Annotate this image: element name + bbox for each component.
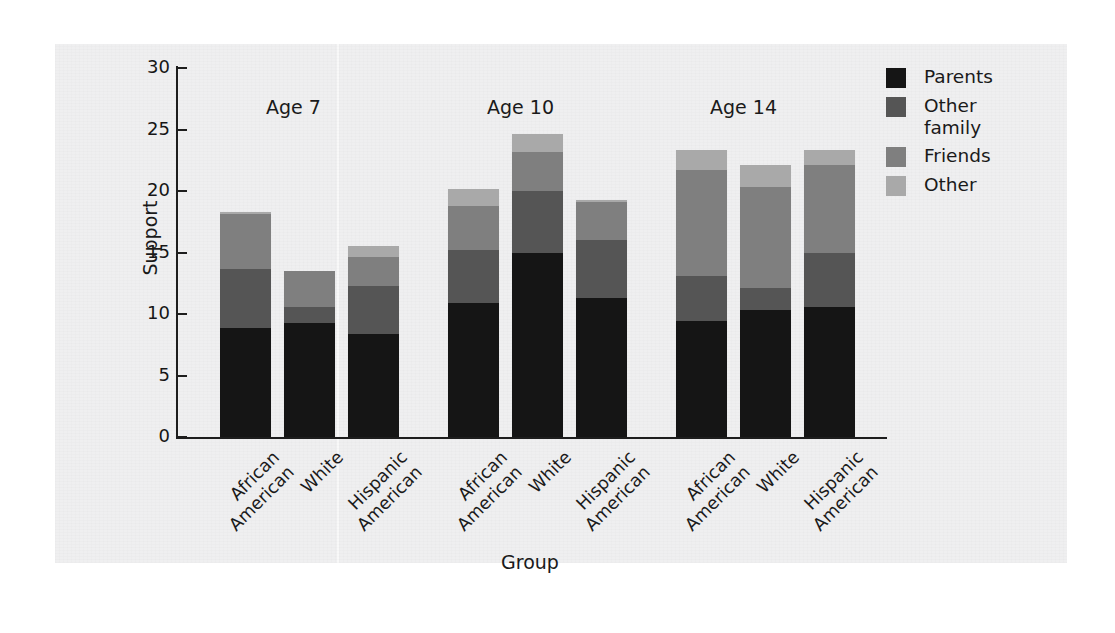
y-axis-tick-label: 5 (130, 366, 170, 384)
bars-layer (176, 68, 884, 437)
bar-segment (740, 288, 791, 310)
legend-label: Other (924, 174, 977, 196)
legend-swatch (886, 97, 906, 117)
bar (576, 200, 627, 437)
bar-segment (220, 328, 271, 437)
bar-segment (512, 191, 563, 253)
stacked-bar-chart: 051015202530 Age 7Age 10Age 14 African A… (0, 0, 1115, 633)
bar-segment (676, 170, 727, 276)
bar-segment (576, 298, 627, 437)
bar-segment (676, 321, 727, 437)
x-axis-title: Group (0, 551, 1060, 573)
bar-segment (740, 310, 791, 437)
bar-segment (512, 134, 563, 151)
bar-segment (348, 246, 399, 257)
bar-segment (576, 240, 627, 298)
bar-segment (804, 253, 855, 307)
bar-segment (348, 257, 399, 285)
legend-item: Other (886, 174, 1086, 196)
y-axis-tick-label: 25 (130, 120, 170, 138)
bar-segment (576, 202, 627, 240)
y-axis-tick-label: 30 (130, 58, 170, 76)
bar-segment (220, 269, 271, 328)
x-axis-line (176, 437, 887, 439)
chart-legend: ParentsOther familyFriendsOther (886, 66, 1086, 203)
bar-segment (448, 303, 499, 437)
bar-segment (512, 253, 563, 438)
bar-segment (804, 307, 855, 437)
bar-segment (348, 286, 399, 334)
bar (740, 165, 791, 437)
group-label: Age 7 (266, 96, 321, 118)
bar-segment (348, 334, 399, 437)
bar-segment (804, 165, 855, 252)
y-axis-tick-label: 10 (130, 304, 170, 322)
legend-swatch (886, 176, 906, 196)
y-axis-title: Support (139, 200, 161, 275)
bar-segment (804, 150, 855, 165)
legend-item: Friends (886, 145, 1086, 167)
bar (512, 134, 563, 437)
legend-item: Other family (886, 95, 1086, 138)
bar-segment (284, 323, 335, 437)
group-label: Age 10 (487, 96, 554, 118)
bar-segment (220, 214, 271, 268)
bar-segment (676, 276, 727, 322)
bar-segment (284, 271, 335, 307)
legend-label: Friends (924, 145, 991, 167)
bar-segment (740, 165, 791, 187)
y-axis-tick-label: 20 (130, 181, 170, 199)
bar-segment (512, 152, 563, 191)
y-axis-tick-label: 0 (130, 427, 170, 445)
bar (804, 150, 855, 437)
legend-label: Other family (924, 95, 981, 138)
legend-swatch (886, 68, 906, 88)
legend-label: Parents (924, 66, 993, 88)
bar (448, 189, 499, 437)
legend-item: Parents (886, 66, 1086, 88)
bar-segment (448, 206, 499, 250)
bar-segment (448, 250, 499, 303)
group-label: Age 14 (710, 96, 777, 118)
legend-swatch (886, 147, 906, 167)
bar (348, 246, 399, 437)
bar-segment (676, 150, 727, 170)
bar-segment (448, 189, 499, 206)
bar-segment (740, 187, 791, 288)
bar-segment (284, 307, 335, 323)
bar (284, 271, 335, 437)
bar (220, 212, 271, 437)
bar (676, 150, 727, 437)
